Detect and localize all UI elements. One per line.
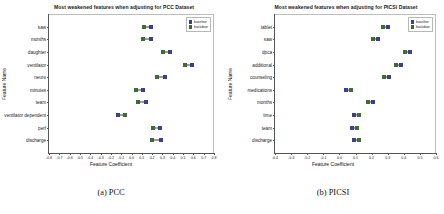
y-axis-tick-label: team (36, 100, 49, 105)
x-axis-tick-label: 0.1 (139, 156, 144, 160)
caption-picsi: (b) PICSI (222, 188, 444, 197)
x-axis-tick-label: -0.1 (118, 156, 124, 160)
y-axis-tick-label: saw (264, 37, 275, 42)
data-point-baseline (158, 126, 162, 130)
legend-pcc: baseline backdoor (186, 17, 211, 32)
x-axis-tick-label: 0.8 (212, 156, 217, 160)
data-point-baseline (144, 100, 148, 104)
x-axis-tick-label: 0.5 (181, 156, 186, 160)
x-axis-tick-label: -0.7 (56, 156, 62, 160)
data-point-baseline (159, 138, 163, 142)
data-point-backdoor (183, 63, 187, 67)
data-point-backdoor (366, 100, 370, 104)
panel-picsi: Most weakened features when adjusting fo… (222, 0, 444, 214)
data-point-backdoor (357, 138, 361, 142)
data-point-backdoor (355, 126, 359, 130)
x-axis-tick-label: -0.3 (97, 156, 103, 160)
data-point-baseline (141, 88, 145, 92)
data-point-backdoor (161, 50, 165, 54)
x-axis-tick-label: -0.2 (108, 156, 114, 160)
x-axis-tick-label: 0.0 (337, 156, 342, 160)
legend-item-backdoor: backdoor (189, 25, 208, 30)
y-axis-tick-label: discharge (26, 138, 49, 143)
data-point-backdoor (357, 113, 361, 117)
legend-swatch-backdoor-icon (411, 25, 414, 28)
x-axis-tick-label: 0.2 (369, 156, 374, 160)
data-point-baseline (163, 75, 167, 79)
y-axis-tick-label: daughter (28, 49, 49, 54)
data-point-backdoor (349, 88, 353, 92)
y-axis-tick-label: minutes (30, 87, 49, 92)
x-axis-tick-label: 0.4 (401, 156, 406, 160)
x-axis-tick-label: -0.3 (288, 156, 294, 160)
data-point-baseline (190, 63, 194, 67)
data-point-backdoor (381, 25, 385, 29)
data-point-baseline (116, 113, 120, 117)
y-axis-tick-label: ventilator (27, 62, 49, 67)
x-axis-tick-label: 0.6 (434, 156, 439, 160)
data-point-baseline (386, 25, 390, 29)
data-point-backdoor (382, 75, 386, 79)
legend-swatch-baseline-icon (411, 20, 414, 23)
panel-pcc: Most weakened features when adjusting fo… (0, 0, 222, 214)
data-point-baseline (371, 100, 375, 104)
data-point-baseline (399, 63, 403, 67)
data-point-backdoor (403, 50, 407, 54)
legend-label-backdoor: backdoor (194, 25, 208, 29)
plot-border-right (213, 14, 214, 153)
data-point-backdoor (142, 25, 146, 29)
data-point-baseline (350, 126, 354, 130)
data-point-baseline (376, 37, 380, 41)
y-axis-title-picsi: Feature Name (227, 68, 233, 100)
y-axis-tick-label: neuro (34, 75, 49, 80)
x-axis-tick-label: 0.1 (353, 156, 358, 160)
plot-area-pcc: baseline backdoor -0.8-0.7-0.6-0.5-0.4-0… (48, 14, 214, 154)
x-axis-tick-label: -0.1 (320, 156, 326, 160)
legend-swatch-baseline-icon (189, 20, 192, 23)
chart-title-pcc: Most weakened features when adjusting fo… (0, 4, 222, 10)
x-axis-tick-label: 0.4 (170, 156, 175, 160)
y-axis-title-pcc: Feature Name (1, 68, 7, 100)
chart-title-picsi: Most weakened features when adjusting fo… (222, 4, 444, 10)
data-point-baseline (352, 138, 356, 142)
data-point-backdoor (155, 75, 159, 79)
y-axis-tick-label: time (263, 113, 275, 118)
y-axis-tick-label: tablet (261, 24, 275, 29)
data-point-backdoor (136, 100, 140, 104)
legend-swatch-backdoor-icon (189, 25, 192, 28)
y-axis-tick-label: medications (247, 87, 275, 92)
y-axis-tick-label: months (31, 37, 49, 42)
x-axis-tick-label: 0.3 (385, 156, 390, 160)
y-axis-tick-label: additional (252, 62, 275, 67)
x-axis-tick-label: -0.5 (77, 156, 83, 160)
data-point-baseline (352, 113, 356, 117)
x-axis-tick-label: -0.4 (87, 156, 93, 160)
y-axis-tick-label: team (262, 125, 275, 130)
data-point-backdoor (150, 138, 154, 142)
data-point-baseline (408, 50, 412, 54)
y-axis-tick-label: months (257, 100, 275, 105)
data-point-baseline (149, 25, 153, 29)
x-axis-title-picsi: Feature Coefficient (222, 161, 444, 167)
x-axis-tick-label: 0.2 (150, 156, 155, 160)
data-point-backdoor (134, 88, 138, 92)
legend-picsi: baseline backdoor (408, 17, 433, 32)
x-axis-tick-label: 0.0 (129, 156, 134, 160)
x-axis-tick-label: 0.3 (160, 156, 165, 160)
plot-area-picsi: baseline backdoor -0.4-0.3-0.2-0.10.00.1… (274, 14, 436, 154)
x-axis-tick-label: -0.6 (67, 156, 73, 160)
data-point-backdoor (141, 37, 145, 41)
data-point-backdoor (123, 113, 127, 117)
plot-border-right (435, 14, 436, 153)
x-axis-tick-label: -0.8 (46, 156, 52, 160)
data-point-baseline (149, 37, 153, 41)
y-axis-tick-label: dpca (262, 49, 275, 54)
x-axis-tick-label: 0.5 (417, 156, 422, 160)
x-axis-tick-label: -0.2 (304, 156, 310, 160)
y-axis-tick-label: saw (38, 24, 49, 29)
x-axis-tick-label: 0.6 (191, 156, 196, 160)
y-axis-tick-label: discharge (252, 138, 275, 143)
data-point-backdoor (371, 37, 375, 41)
data-point-backdoor (394, 63, 398, 67)
x-axis-title-pcc: Feature Coefficient (0, 161, 222, 167)
